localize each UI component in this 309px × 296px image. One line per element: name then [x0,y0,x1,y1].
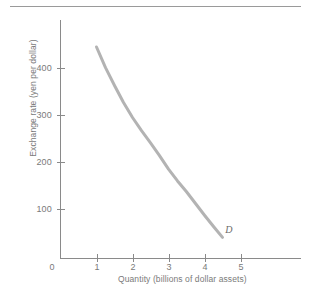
y-axis-label: Exchange rate (yen per dollar) [28,18,38,178]
x-tick-label-2: 2 [125,262,141,272]
chart-figure: 400 300 200 100 0 1 2 3 4 5 Exchange rat… [0,0,309,296]
x-tick-label-1: 1 [89,262,105,272]
x-tick-label-4: 4 [197,262,213,272]
demand-curve [97,47,223,237]
plot-area [0,0,309,296]
y-tick-label-100: 100 [22,204,52,214]
x-axis-label: Quantity (billions of dollar assets) [118,274,247,284]
x-tick-label-5: 5 [233,262,249,272]
x-tick-label-0: 0 [44,262,60,272]
demand-curve-label: D [225,224,232,235]
x-tick-label-3: 3 [161,262,177,272]
